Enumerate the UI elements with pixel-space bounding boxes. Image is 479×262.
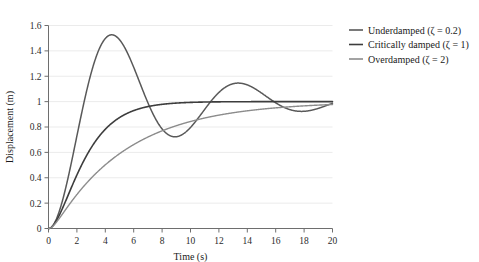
legend: Underdamped (ζ = 0.2)Critically damped (…: [349, 25, 469, 66]
y-tick-label: 0.2: [30, 199, 42, 209]
series-line: [49, 35, 333, 229]
y-tick-labels: 00.20.40.60.811.21.41.6: [30, 21, 42, 234]
y-axis-title: Displacement (m): [4, 91, 16, 163]
x-tick-label: 6: [131, 236, 136, 246]
series-line: [49, 102, 333, 229]
y-tick-label: 0.8: [30, 122, 42, 132]
x-tick-label: 14: [243, 236, 253, 246]
x-axis-title: Time (s): [174, 251, 208, 262]
x-tick-label: 8: [160, 236, 165, 246]
legend-label: Critically damped (ζ = 1): [368, 39, 469, 51]
x-tick-label: 20: [328, 236, 338, 246]
x-tick-marks: [49, 229, 333, 233]
x-tick-labels: 02468101214161820: [46, 236, 337, 246]
data-series: [49, 35, 333, 229]
y-tick-label: 1.4: [30, 46, 42, 56]
y-tick-label: 0: [37, 224, 42, 234]
y-tick-marks: [45, 26, 49, 229]
x-tick-label: 16: [271, 236, 281, 246]
legend-label: Underdamped (ζ = 0.2): [368, 25, 461, 37]
x-tick-label: 2: [75, 236, 80, 246]
figure-container: 02468101214161820 00.20.40.60.811.21.41.…: [0, 0, 479, 262]
x-tick-label: 18: [299, 236, 309, 246]
series-line: [49, 105, 333, 229]
step-response-chart: 02468101214161820 00.20.40.60.811.21.41.…: [0, 0, 479, 262]
y-tick-label: 1.2: [30, 72, 42, 82]
legend-label: Overdamped (ζ = 2): [368, 54, 449, 66]
x-tick-label: 0: [46, 236, 51, 246]
x-tick-label: 12: [214, 236, 224, 246]
y-tick-label: 0.4: [30, 173, 42, 183]
grid-lines: [49, 26, 333, 204]
x-tick-label: 4: [103, 236, 108, 246]
x-tick-label: 10: [186, 236, 196, 246]
y-tick-label: 0.6: [30, 148, 42, 158]
y-tick-label: 1.6: [30, 21, 42, 31]
y-tick-label: 1: [37, 97, 42, 107]
